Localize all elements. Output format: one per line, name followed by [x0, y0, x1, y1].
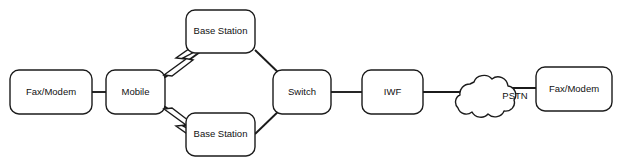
node-pstn-cloud-label: PSTN	[502, 90, 527, 101]
node-mobile-label: Mobile	[122, 86, 150, 97]
node-iwf[interactable]: IWF	[362, 70, 423, 114]
node-pstn-cloud[interactable]: PSTN	[456, 75, 528, 117]
node-base-station-bottom-label: Base Station	[194, 128, 248, 139]
node-faxmodem-left[interactable]: Fax/Modem	[10, 70, 92, 114]
node-base-station-bottom[interactable]: Base Station	[186, 113, 255, 156]
network-diagram: Fax/Modem Mobile Base Station Base Stati…	[0, 0, 619, 165]
node-iwf-label: IWF	[384, 86, 402, 97]
node-base-station-top-label: Base Station	[194, 25, 248, 36]
node-base-station-top[interactable]: Base Station	[186, 10, 255, 53]
node-switch-label: Switch	[288, 86, 316, 97]
node-faxmodem-right-label: Fax/Modem	[549, 83, 599, 94]
node-faxmodem-left-label: Fax/Modem	[26, 86, 76, 97]
node-faxmodem-right[interactable]: Fax/Modem	[536, 67, 612, 111]
node-switch[interactable]: Switch	[273, 70, 331, 114]
node-mobile[interactable]: Mobile	[106, 70, 165, 114]
network-diagram-canvas: Fax/Modem Mobile Base Station Base Stati…	[0, 0, 619, 165]
